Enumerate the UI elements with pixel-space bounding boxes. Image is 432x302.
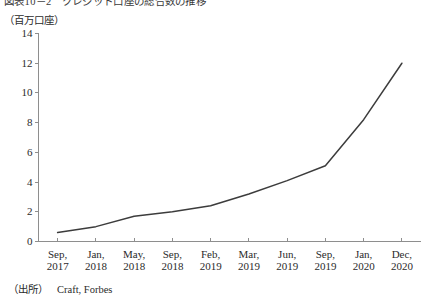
chart-series — [58, 63, 402, 232]
y-axis-tick-label: 0 — [7, 236, 33, 247]
chart-axes — [35, 34, 421, 242]
source-text: Craft, Forbes — [57, 284, 112, 295]
y-axis-tick-label: 6 — [7, 147, 33, 158]
plot-area: 02468101214 Sep,2017Jan,2018May,2018Sep,… — [0, 0, 432, 302]
figure-container: 図表10－2 クレジット口座の総合数の推移 （百万口座） 02468101214… — [0, 0, 432, 302]
y-axis-tick-label: 8 — [7, 117, 33, 128]
y-axis-tick-label: 10 — [7, 87, 33, 98]
y-axis-tick-label: 2 — [7, 206, 33, 217]
y-axis-tick-label: 12 — [7, 58, 33, 69]
y-axis-tick-label: 4 — [7, 177, 33, 188]
source-note: （出所）Craft, Forbes — [8, 281, 112, 296]
source-label: （出所） — [8, 284, 48, 295]
y-axis-tick-label: 14 — [7, 28, 33, 39]
x-tick-month: Dec, — [375, 248, 429, 261]
x-tick-year: 2020 — [375, 260, 429, 273]
x-axis-tick-label: Dec,2020 — [375, 248, 429, 274]
